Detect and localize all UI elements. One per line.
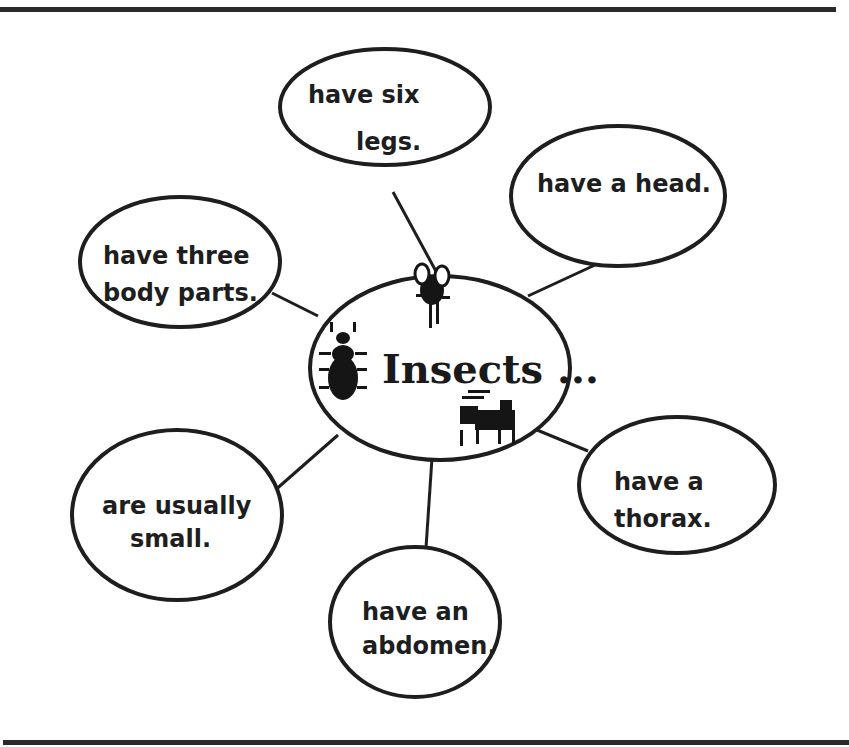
connector-body-parts [272, 293, 318, 316]
node-text-line2: thorax. [614, 505, 712, 533]
node-text-line1: have three [103, 242, 250, 270]
node-small: are usually small. [72, 430, 282, 600]
center-node: Insects ... [310, 264, 599, 460]
node-text-line1: have an [362, 598, 469, 626]
node-text-line1: have a head. [537, 170, 711, 198]
connector-thorax [537, 430, 588, 451]
connector-small [273, 435, 338, 492]
connector-abdomen [426, 458, 432, 548]
node-head: have a head. [511, 126, 725, 266]
node-text-line2: body parts. [103, 279, 258, 307]
center-title: Insects ... [382, 345, 599, 392]
connector-head [528, 265, 595, 296]
node-text-line1: have a [614, 468, 704, 496]
node-text-line1: are usually [102, 492, 252, 520]
node-legs: have six legs. [280, 49, 490, 165]
concept-web-diagram: have six legs. have a head. have three b… [0, 0, 849, 747]
node-text-line2: small. [130, 525, 211, 553]
node-text-line2: legs. [356, 128, 421, 156]
node-abdomen: have an abdomen. [330, 547, 500, 697]
connector-legs [393, 192, 438, 275]
node-body-parts: have three body parts. [80, 197, 280, 327]
node-text-line2: abdomen. [362, 632, 497, 660]
node-text-line1: have six [308, 81, 420, 109]
node-thorax: have a thorax. [579, 417, 775, 553]
